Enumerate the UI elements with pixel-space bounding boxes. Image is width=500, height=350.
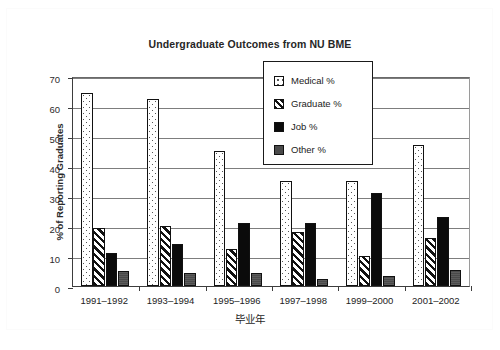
legend-swatch-graduate-icon [274, 99, 284, 109]
x-tick-mark [471, 286, 472, 291]
x-tick-label: 1993–1994 [147, 295, 195, 306]
legend-swatch-other-icon [274, 145, 284, 155]
bar-medical-6 [413, 145, 425, 286]
bar-other-1 [118, 271, 130, 286]
x-tick-mark [206, 286, 207, 291]
bar-other-3 [251, 273, 263, 287]
gridline [73, 198, 469, 199]
bar-job-4 [305, 223, 317, 286]
x-tick-mark [139, 286, 140, 291]
bar-other-2 [184, 273, 196, 287]
x-tick-label: 1995–1996 [213, 295, 261, 306]
gridline [73, 168, 469, 169]
gridline [73, 228, 469, 229]
bar-medical-3 [214, 151, 226, 286]
y-tick-label: 30 [49, 194, 60, 205]
y-tick-label: 40 [49, 164, 60, 175]
y-tick-mark: 60 [68, 108, 73, 109]
x-tick-label: 1997–1998 [279, 295, 327, 306]
legend-item-job: Job % [274, 115, 372, 138]
y-tick-mark: 20 [68, 228, 73, 229]
legend-swatch-medical-icon [274, 76, 284, 86]
bar-medical-5 [346, 181, 358, 286]
legend-label: Graduate % [291, 98, 342, 109]
y-tick-mark: 30 [68, 198, 73, 199]
y-tick-label: 10 [49, 254, 60, 265]
bar-medical-4 [280, 181, 292, 286]
bar-medical-2 [147, 99, 159, 287]
x-tick-label: 1999–2000 [346, 295, 394, 306]
bar-graduate-2 [160, 226, 172, 286]
y-tick-label: 60 [49, 104, 60, 115]
bar-job-5 [371, 193, 383, 286]
bar-job-1 [106, 253, 118, 286]
legend-item-other: Other % [274, 138, 372, 161]
chart-legend: Medical %Graduate %Job %Other % [263, 61, 373, 165]
x-tick-mark [405, 286, 406, 291]
bar-job-6 [437, 217, 449, 286]
y-tick-mark: 70 [68, 78, 73, 79]
bar-graduate-1 [93, 228, 105, 287]
x-tick-label: 1991–1992 [80, 295, 128, 306]
chart-screenshot: Undergraduate Outcomes from NU BME % of … [0, 0, 500, 350]
legend-label: Job % [291, 121, 317, 132]
bar-other-5 [383, 276, 395, 287]
gridline [73, 258, 469, 259]
legend-swatch-job-icon [274, 122, 284, 132]
bar-other-6 [450, 270, 462, 287]
legend-label: Medical % [291, 75, 335, 86]
chart-title: Undergraduate Outcomes from NU BME [0, 38, 500, 50]
y-tick-label: 70 [49, 74, 60, 85]
bar-graduate-4 [292, 232, 304, 286]
y-tick-label: 50 [49, 134, 60, 145]
legend-item-medical: Medical % [274, 69, 372, 92]
y-tick-label: 0 [55, 284, 60, 295]
bar-job-3 [238, 223, 250, 286]
y-tick-mark: 10 [68, 258, 73, 259]
bar-other-4 [317, 279, 329, 287]
y-tick-mark: 40 [68, 168, 73, 169]
x-axis-title: 毕业年 [0, 311, 500, 326]
y-tick-label: 20 [49, 224, 60, 235]
legend-label: Other % [291, 144, 326, 155]
bar-medical-1 [81, 93, 93, 287]
bar-job-2 [172, 244, 184, 286]
x-tick-mark [338, 286, 339, 291]
y-tick-mark: 50 [68, 138, 73, 139]
bar-graduate-5 [359, 256, 371, 286]
x-tick-label: 2001–2002 [412, 295, 460, 306]
y-tick-mark: 0 [68, 288, 73, 289]
x-tick-mark [272, 286, 273, 291]
bar-graduate-3 [226, 249, 238, 287]
bar-graduate-6 [425, 238, 437, 286]
legend-item-graduate: Graduate % [274, 92, 372, 115]
